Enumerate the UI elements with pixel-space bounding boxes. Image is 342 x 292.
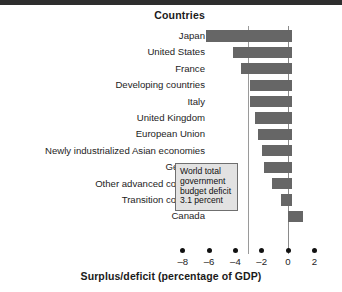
chart-row: Germany <box>0 159 342 175</box>
axis-tick-dot <box>259 248 264 253</box>
axis-tick-dot <box>207 248 212 253</box>
axis-tick-label: –2 <box>249 256 275 267</box>
chart-row: Other advanced countries <box>0 176 342 192</box>
category-label: France <box>0 63 205 74</box>
bar <box>206 30 292 41</box>
axis-tick-dot <box>286 248 291 253</box>
x-axis-tick-labels: –8–6–4–202 <box>0 256 342 270</box>
chart-row: Newly industrialized Asian economies <box>0 143 342 159</box>
axis-tick-label: –6 <box>196 256 222 267</box>
axis-tick-label: –8 <box>170 256 196 267</box>
bar <box>250 80 292 91</box>
chart-row: Canada <box>0 208 342 224</box>
chart-row: Japan <box>0 28 342 44</box>
chart-row: Transition countries <box>0 192 342 208</box>
bar <box>250 96 292 107</box>
axis-tick-dot <box>312 248 317 253</box>
chart-row: United Kingdom <box>0 110 342 126</box>
bar <box>281 194 292 205</box>
axis-tick-label: 2 <box>301 256 327 267</box>
bar <box>262 145 292 156</box>
axis-tick-label: 0 <box>275 256 301 267</box>
x-axis-title: Surplus/deficit (percentage of GDP) <box>0 270 342 282</box>
axis-tick-dot <box>180 248 185 253</box>
bar <box>288 211 303 222</box>
category-label: Italy <box>0 96 205 107</box>
world-total-callout: World total government budget deficit 3.… <box>175 163 238 211</box>
chart-row: European Union <box>0 126 342 142</box>
category-label: Japan <box>0 30 205 41</box>
category-label: Newly industrialized Asian economies <box>0 145 205 156</box>
category-label: European Union <box>0 128 205 139</box>
chart-row: United States <box>0 44 342 60</box>
bar <box>264 162 292 173</box>
chart-row: Italy <box>0 94 342 110</box>
bar <box>272 178 292 189</box>
category-label: United States <box>0 46 205 57</box>
bar <box>233 47 292 58</box>
axis-tick-label: –4 <box>222 256 248 267</box>
bar <box>255 112 292 123</box>
bar <box>241 63 292 74</box>
bar <box>258 129 292 140</box>
category-label: Canada <box>0 210 205 221</box>
callout-line-4: 3.1 percent <box>180 196 233 206</box>
budget-deficit-bar-chart: Countries JapanUnited StatesFranceDevelo… <box>0 0 342 292</box>
category-label: United Kingdom <box>0 112 205 123</box>
chart-row: Developing countries <box>0 77 342 93</box>
category-label: Developing countries <box>0 79 205 90</box>
chart-row: France <box>0 61 342 77</box>
axis-tick-dot <box>233 248 238 253</box>
